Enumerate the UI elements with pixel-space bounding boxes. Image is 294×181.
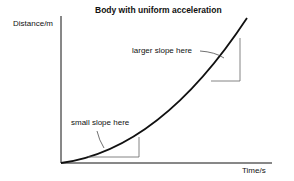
large-slope-triangle bbox=[211, 38, 240, 81]
distance-time-curve bbox=[61, 18, 247, 163]
chart-plot bbox=[0, 0, 294, 181]
leader-line-small bbox=[97, 131, 104, 148]
